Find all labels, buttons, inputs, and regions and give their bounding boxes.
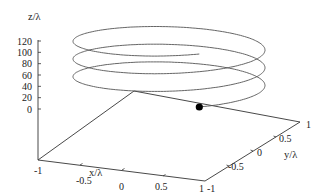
z-tick-label: 120 (17, 36, 32, 47)
z-tick-label: 100 (17, 47, 32, 58)
y-tick-label: 1 (306, 119, 311, 130)
z-tick-label: 0 (27, 104, 32, 115)
z-tick-label: 80 (22, 58, 32, 69)
z-ticks: 020406080100120 (17, 36, 41, 115)
back-left-edge (38, 91, 134, 160)
helix-3d-plot: 020406080100120 -1-0.500.51 -1-0.500.51 … (0, 0, 321, 192)
x-tick (80, 164, 83, 166)
y-axis-label: y/λ (284, 149, 298, 160)
z-tick-label: 40 (22, 81, 32, 92)
helix-curve (73, 27, 265, 108)
y-tick-label: -1 (207, 183, 215, 192)
y-tick-label: -0.5 (228, 161, 244, 172)
x-tick-label: 1 (199, 183, 204, 192)
z-tick-label: 20 (22, 92, 32, 103)
x-tick-label: 0 (119, 181, 124, 192)
x-axis (38, 160, 205, 181)
z-tick-label: 60 (22, 70, 32, 81)
x-tick-label: -1 (34, 165, 42, 176)
x-axis-label: x/λ (89, 167, 103, 178)
y-tick (251, 150, 254, 151)
x-tick (122, 169, 125, 171)
y-tick (274, 136, 277, 137)
start-point-marker (196, 103, 203, 110)
y-tick-label: 0 (257, 147, 262, 158)
back-right-edge (134, 91, 300, 122)
x-tick-label: 0.5 (155, 181, 168, 192)
z-axis-label: z/λ (28, 11, 42, 22)
y-tick-label: 0.5 (279, 133, 292, 144)
